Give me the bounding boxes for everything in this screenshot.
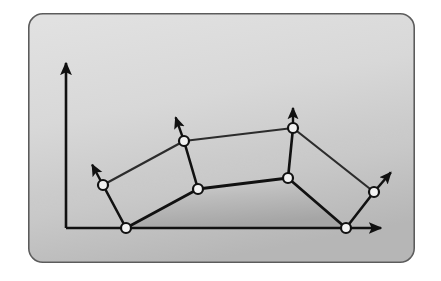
node-lower-l4 — [341, 223, 351, 233]
node-lower-l1 — [121, 223, 131, 233]
node-upper-u4 — [369, 187, 379, 197]
node-upper-u3 — [288, 123, 298, 133]
node-lower-l3 — [283, 173, 293, 183]
node-lower-l2 — [193, 184, 203, 194]
figure-canvas — [0, 0, 441, 281]
node-upper-u1 — [98, 180, 108, 190]
node-upper-u2 — [179, 136, 189, 146]
figure-root — [0, 0, 441, 281]
